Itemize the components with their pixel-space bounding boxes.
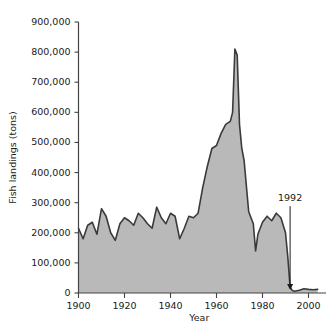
x-tick-label: 1960 bbox=[204, 300, 228, 311]
annotation-label: 1992 bbox=[278, 192, 302, 203]
y-tick-label: 800,000 bbox=[31, 46, 70, 57]
y-tick-label: 200,000 bbox=[31, 227, 70, 238]
fish-landings-area-chart: 0100,000200,000300,000400,000500,000600,… bbox=[0, 0, 334, 334]
y-axis-title: Fish landings (tons) bbox=[7, 111, 18, 204]
y-tick-label: 700,000 bbox=[31, 76, 70, 87]
chart-figure: 0100,000200,000300,000400,000500,000600,… bbox=[0, 0, 334, 334]
y-tick-label: 300,000 bbox=[31, 197, 70, 208]
y-tick-label: 500,000 bbox=[31, 136, 70, 147]
y-tick-label: 600,000 bbox=[31, 106, 70, 117]
y-tick-label: 100,000 bbox=[31, 257, 70, 268]
y-tick-label: 400,000 bbox=[31, 167, 70, 178]
x-tick-label: 1900 bbox=[66, 300, 90, 311]
x-axis-title: Year bbox=[188, 312, 209, 323]
x-tick-label: 1940 bbox=[158, 300, 182, 311]
x-tick-label: 1980 bbox=[250, 300, 274, 311]
x-tick-label: 1920 bbox=[112, 300, 136, 311]
y-tick-label: 900,000 bbox=[31, 16, 70, 27]
x-tick-label: 2000 bbox=[296, 300, 320, 311]
y-tick-label: 0 bbox=[64, 287, 70, 298]
